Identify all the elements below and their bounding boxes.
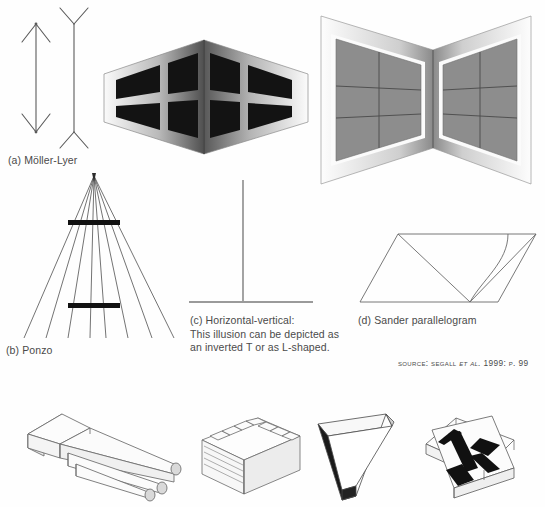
inner-curve (470, 234, 508, 302)
caption-horizontal-vertical: (c) Horizontal-vertical: This illusion c… (190, 314, 339, 355)
figure-outside-corner-windows (100, 30, 312, 165)
arrow-vertex-bottom (35, 131, 38, 134)
figure-impossible-staircase (196, 414, 306, 504)
source-etal: et al. (459, 358, 481, 368)
upper-horizontal-bar (68, 220, 120, 225)
figure-horizontal-vertical (185, 178, 325, 308)
figure-impossible-cross (418, 412, 522, 504)
caption-muller-lyer: (a) Möller-Lyer (8, 154, 77, 168)
long-diagonal (398, 234, 470, 302)
outside-corner-svg (100, 30, 312, 165)
source-prefix: Source: (398, 358, 428, 368)
left-shaft-with-inward-fins (22, 24, 50, 132)
short-diagonal (470, 234, 536, 302)
impossible-trident-svg (6, 398, 196, 498)
prong-cap-3 (145, 489, 155, 501)
prong-cap-1 (171, 463, 181, 475)
source-year: 1999: (484, 358, 507, 368)
horizontal-vertical-svg (185, 178, 325, 308)
figure-ponzo (6, 170, 186, 340)
caption-sander-parallelogram: (d) Sander parallelogram (358, 314, 477, 328)
caption-ponzo: (b) Ponzo (6, 344, 52, 358)
penrose-triangle-svg (312, 412, 402, 504)
converging-line-fan (24, 176, 174, 338)
sander-svg (358, 228, 538, 310)
right-shaft-with-outward-fins (60, 8, 88, 148)
arrow-vertex-top (35, 23, 38, 26)
parallelogram-outline (360, 234, 536, 302)
source-line: Source: Segall et al. 1999: p. 99 (398, 358, 528, 368)
figure-page: { "page": { "title": "Visual illusions f… (0, 0, 545, 507)
impossible-staircase-svg (196, 414, 306, 504)
figure-inside-corner-windows (305, 8, 543, 190)
impossible-cross-svg (418, 412, 522, 504)
figure-impossible-trident (6, 398, 196, 498)
figure-penrose-triangle (312, 412, 402, 504)
prong-cap-2 (157, 482, 167, 494)
ponzo-svg (6, 170, 186, 340)
inside-corner-svg (305, 8, 543, 190)
lower-horizontal-bar (68, 303, 120, 308)
source-page: p. 99 (509, 358, 529, 368)
source-author: Segall (431, 358, 456, 368)
figure-sander-parallelogram (358, 228, 538, 310)
